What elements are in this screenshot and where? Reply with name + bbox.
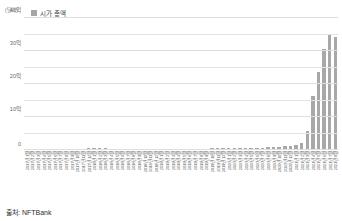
y-axis-tick-label: 0 (18, 141, 21, 147)
gridline-major (24, 17, 338, 18)
x-axis-tick-label: 2021년 8월 (332, 151, 338, 170)
gridline-minor (24, 67, 338, 68)
gridline-minor (24, 100, 338, 101)
y-axis-tick-label: 40억 (10, 6, 21, 14)
x-axis-labels: 2017년 1월2017년 2월2017년 3월2017년 4월2017년 5월… (24, 151, 338, 199)
gridline-minor (24, 34, 338, 35)
y-axis-tick-label: 20억 (10, 72, 21, 80)
gridline-minor (24, 133, 338, 134)
bar[interactable] (311, 96, 314, 149)
gridline-major (24, 149, 338, 150)
gridline-major (24, 116, 338, 117)
plot-area: 010억20억30억40억 (24, 18, 338, 150)
legend-swatch-icon (31, 10, 37, 16)
gridline-major (24, 50, 338, 51)
y-axis-tick-label: 10억 (10, 105, 21, 113)
y-axis-tick-label: 30억 (10, 39, 21, 47)
market-cap-chart: (달러) 시가 총액 010억20억30억40억 2017년 1월2017년 2… (0, 0, 342, 221)
gridline-major (24, 83, 338, 84)
source-caption: 출처: NFTBank (6, 207, 51, 217)
x-label-slot: 2021년 8월 (333, 151, 339, 199)
